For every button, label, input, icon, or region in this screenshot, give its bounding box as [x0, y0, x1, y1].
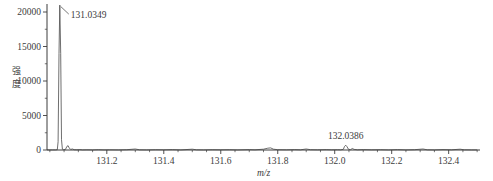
peak-label: 132.0386	[328, 131, 364, 141]
y-axis-title: 强	[12, 66, 21, 76]
y-tick-label: 15000	[17, 42, 41, 52]
y-tick-label: 10000	[17, 76, 41, 86]
x-tick-label: 131.8	[267, 156, 289, 166]
spectrum-trace	[47, 5, 477, 150]
spectrum-svg: 131.2131.4131.6131.8132.0132.2132.405000…	[0, 0, 493, 181]
x-tick-label: 131.2	[96, 156, 118, 166]
x-axis-title: m/z	[257, 168, 271, 178]
peak-leader-line	[61, 7, 69, 14]
y-tick-label: 20000	[17, 7, 41, 17]
peak-label: 131.0349	[71, 10, 107, 20]
y-tick-label: 0	[36, 145, 41, 155]
x-tick-label: 132.0	[324, 156, 346, 166]
y-axis-title: 度	[12, 78, 21, 89]
x-tick-label: 132.4	[438, 156, 460, 166]
x-tick-label: 132.2	[381, 156, 403, 166]
x-tick-label: 131.6	[210, 156, 232, 166]
mass-spectrum-figure: 131.2131.4131.6131.8132.0132.2132.405000…	[0, 0, 493, 181]
y-tick-label: 5000	[22, 111, 41, 121]
x-tick-label: 131.4	[153, 156, 175, 166]
